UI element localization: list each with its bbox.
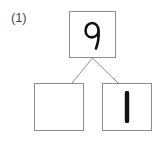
part-box-left[interactable] xyxy=(34,83,84,131)
number-bond-worksheet-item: (1) xyxy=(0,0,158,141)
whole-box[interactable] xyxy=(69,11,116,58)
handwritten-digit-one xyxy=(121,91,133,123)
problem-number-label: (1) xyxy=(11,10,26,25)
part-box-right[interactable] xyxy=(102,83,152,131)
connector-line-left xyxy=(72,58,93,83)
connector-line-right xyxy=(93,58,119,83)
handwritten-digit-nine xyxy=(81,18,105,52)
